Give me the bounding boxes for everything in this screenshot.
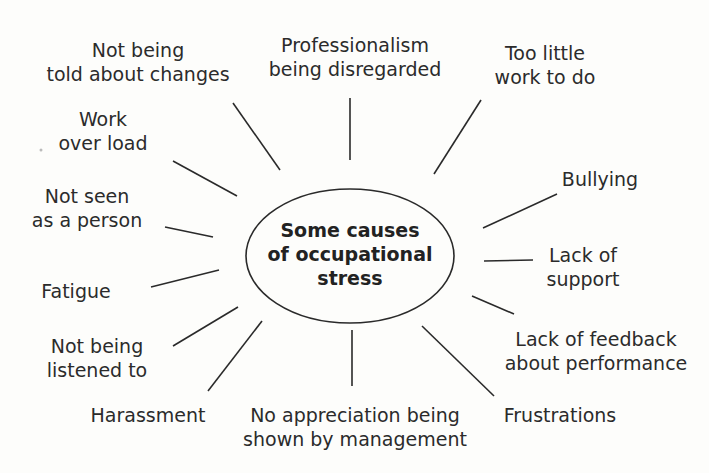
- node-bullying: Bullying: [562, 167, 638, 191]
- center-line-1: Some causes: [268, 218, 433, 242]
- node-not-told-changes: Not being told about changes: [46, 38, 229, 86]
- node-line: Not being: [47, 334, 148, 358]
- node-line: shown by management: [243, 427, 467, 451]
- connector-work-overload: [173, 161, 237, 196]
- connector-lack-feedback: [472, 296, 514, 314]
- node-line: Harassment: [91, 403, 206, 427]
- node-line: as a person: [32, 208, 142, 232]
- connector-harassment: [208, 321, 262, 391]
- node-too-little-work: Too little work to do: [495, 41, 596, 89]
- connector-not-seen-person: [165, 227, 213, 237]
- node-line: about performance: [505, 351, 688, 375]
- node-not-seen-person: Not seen as a person: [32, 184, 142, 232]
- node-lack-support: Lack of support: [547, 243, 620, 291]
- node-no-appreciation: No appreciation being shown by managemen…: [243, 403, 467, 451]
- node-line: work to do: [495, 65, 596, 89]
- node-line: Too little: [495, 41, 596, 65]
- node-lack-feedback: Lack of feedback about performance: [505, 327, 688, 375]
- node-fatigue: Fatigue: [41, 279, 110, 303]
- node-line: Fatigue: [41, 279, 110, 303]
- connector-bullying: [483, 194, 557, 228]
- node-not-listened: Not being listened to: [47, 334, 148, 382]
- center-title: Some causes of occupational stress: [268, 218, 433, 290]
- node-line: Not being: [46, 38, 229, 62]
- node-line: listened to: [47, 358, 148, 382]
- node-line: Work: [58, 107, 147, 131]
- center-line-3: stress: [268, 266, 433, 290]
- node-professionalism: Professionalism being disregarded: [269, 33, 441, 81]
- center-line-2: of occupational: [268, 242, 433, 266]
- connector-too-little-work: [434, 100, 481, 174]
- node-line: told about changes: [46, 62, 229, 86]
- node-frustrations: Frustrations: [504, 403, 617, 427]
- connector-fatigue: [151, 270, 219, 287]
- node-harassment: Harassment: [91, 403, 206, 427]
- node-line: Lack of feedback: [505, 327, 688, 351]
- node-line: Lack of: [547, 243, 620, 267]
- node-line: Not seen: [32, 184, 142, 208]
- node-work-overload: Work over load: [58, 107, 147, 155]
- node-line: being disregarded: [269, 57, 441, 81]
- node-line: Frustrations: [504, 403, 617, 427]
- node-line: support: [547, 267, 620, 291]
- node-line: Bullying: [562, 167, 638, 191]
- connector-lack-support: [484, 260, 533, 261]
- node-line: No appreciation being: [243, 403, 467, 427]
- node-line: over load: [58, 131, 147, 155]
- connector-frustrations: [422, 326, 494, 396]
- connector-not-told-changes: [233, 103, 280, 170]
- speck: [40, 149, 43, 152]
- connector-not-listened: [173, 307, 238, 346]
- node-line: Professionalism: [269, 33, 441, 57]
